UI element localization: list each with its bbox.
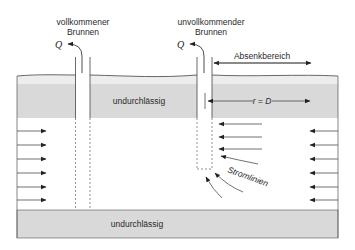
complete-well-label-line2: Brunnen <box>67 27 99 37</box>
bottom-layer-label: undurchlässig <box>111 219 164 229</box>
complete-well <box>68 44 90 210</box>
streamlines-label: Stromlinien <box>226 164 270 188</box>
incomplete-well-label-line1: unvollkommender <box>177 17 244 27</box>
streamlines <box>206 124 262 198</box>
well-diagram: vollkommener Brunnen Q unvollkommender B… <box>0 0 355 250</box>
drawdown-zone-label: Absenkbereich <box>234 51 291 61</box>
complete-well-discharge: Q <box>55 39 63 50</box>
right-flow-arrows <box>310 131 338 200</box>
complete-well-label-line1: vollkommener <box>57 17 110 27</box>
bottom-impermeable-layer <box>17 210 338 238</box>
radius-label: r = D <box>253 96 272 106</box>
left-flow-arrows <box>17 131 46 200</box>
top-layer-label: undurchlässig <box>113 96 166 106</box>
incomplete-well-discharge: Q <box>177 39 185 50</box>
top-impermeable-layer <box>17 75 338 118</box>
incomplete-well-label-line2: Brunnen <box>195 27 227 37</box>
